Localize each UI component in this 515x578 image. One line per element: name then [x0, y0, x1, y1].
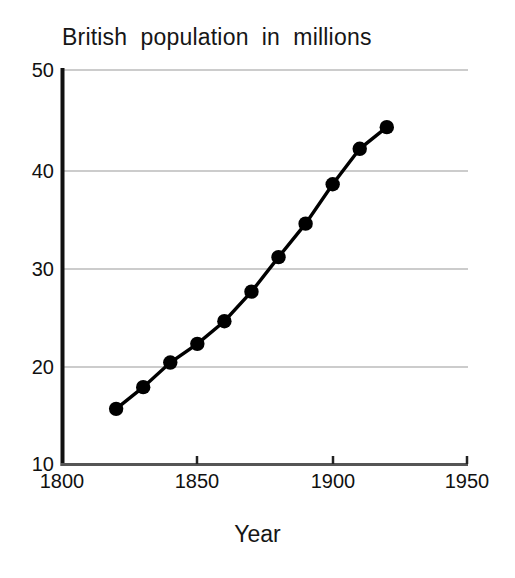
data-point: [136, 380, 150, 394]
data-point: [271, 250, 285, 264]
data-point: [325, 177, 339, 191]
ytick-label-50: 50: [8, 59, 54, 82]
data-point: [380, 120, 394, 134]
ytick-label-30: 30: [8, 258, 54, 281]
x-axis-ticks: [197, 456, 467, 464]
data-point: [190, 337, 204, 351]
data-markers: [109, 120, 394, 416]
ytick-label-20: 20: [8, 356, 54, 379]
x-axis-title: Year: [0, 521, 515, 548]
chart-figure: British population in millions 50 40 30 …: [0, 0, 515, 578]
data-point: [244, 284, 258, 298]
xtick-label-1950: 1950: [422, 470, 512, 493]
xtick-label-1850: 1850: [152, 470, 242, 493]
data-point: [298, 216, 312, 230]
ytick-label-40: 40: [8, 160, 54, 183]
data-point: [163, 355, 177, 369]
xtick-label-1900: 1900: [288, 470, 378, 493]
data-point: [217, 314, 231, 328]
xtick-label-1800: 1800: [17, 470, 107, 493]
data-point: [109, 402, 123, 416]
gridlines: [62, 70, 468, 367]
data-point: [353, 142, 367, 156]
